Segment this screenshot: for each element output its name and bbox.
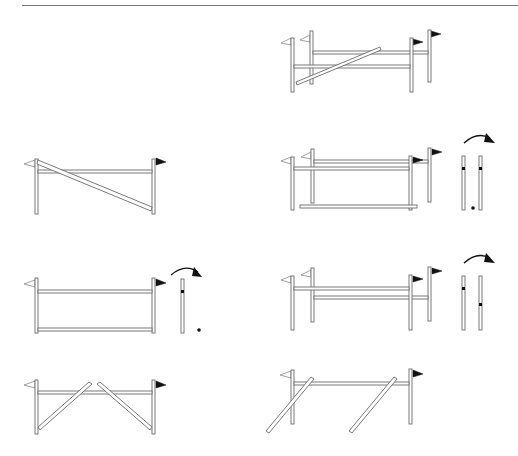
standard-left	[35, 278, 38, 333]
panel-b-vertical-diagonal-rail	[24, 158, 166, 214]
standard-front-left	[291, 38, 294, 92]
rail-top	[38, 290, 152, 293]
black-flag-icon	[431, 31, 441, 37]
white-flag-icon	[301, 270, 311, 277]
standard-back-right	[428, 267, 431, 321]
rail-leaning-left	[266, 377, 314, 433]
standard-left	[35, 380, 38, 434]
panel-a-oxer-knocked-rail	[281, 30, 441, 92]
dot-marker-icon	[197, 328, 201, 332]
panel-g-vertical-leaning-rails	[266, 369, 423, 433]
rail-front	[294, 287, 409, 290]
white-flag-icon	[280, 371, 291, 378]
black-flag-icon	[413, 276, 423, 282]
standard-side-2	[479, 156, 482, 210]
cup-marker-icon	[462, 167, 465, 170]
standard-right	[152, 159, 155, 214]
rail-front	[294, 65, 410, 68]
standard-back-left	[311, 149, 314, 203]
standard-front-left	[291, 276, 294, 330]
black-flag-icon	[156, 381, 166, 388]
standard-back-right	[428, 148, 431, 202]
standard-side-1	[462, 156, 465, 210]
cup-marker-icon	[462, 287, 465, 290]
white-flag-icon	[281, 276, 291, 283]
black-flag-icon	[432, 149, 442, 155]
white-flag-icon	[24, 160, 35, 167]
white-flag-icon	[281, 157, 291, 164]
standard-back-right	[428, 30, 431, 82]
rail-ground	[300, 205, 417, 208]
fence-diagram-svg	[0, 0, 518, 456]
cup-marker-icon	[181, 290, 184, 293]
black-flag-icon	[156, 279, 166, 286]
cup-marker-icon	[479, 167, 482, 170]
standard-left	[291, 370, 294, 424]
panel-e-oxer-offset-rails	[281, 253, 495, 330]
rail-top	[38, 391, 152, 394]
dot-marker-icon	[471, 206, 475, 210]
rail-fallen-diagonal	[37, 160, 152, 211]
white-flag-icon	[281, 38, 291, 45]
white-flag-icon	[301, 152, 311, 159]
rail-front	[294, 167, 409, 170]
black-flag-icon	[156, 158, 166, 165]
standard-front-right	[409, 156, 412, 210]
standard-left	[35, 159, 38, 214]
black-flag-icon	[413, 39, 423, 45]
arrow-head-icon	[192, 267, 202, 277]
white-flag-icon	[300, 35, 310, 42]
standard-right	[152, 380, 155, 434]
panel-f-vertical-v-rails	[24, 380, 166, 434]
standard-side	[181, 279, 184, 333]
panel-d-vertical-two-rails	[24, 267, 202, 333]
standard-front-right	[410, 38, 413, 92]
panel-c-oxer-ground-rail	[281, 133, 495, 210]
rail-bottom	[38, 328, 152, 331]
arrow-head-icon	[484, 133, 495, 143]
rail-fallen-right	[97, 382, 152, 430]
white-flag-icon	[24, 381, 35, 388]
standard-back-left	[311, 268, 314, 322]
standard-right	[409, 369, 412, 424]
standard-right	[152, 278, 155, 333]
rail-fallen-left	[38, 382, 92, 430]
standard-front-right	[409, 275, 412, 330]
black-flag-icon	[413, 370, 423, 377]
standard-side-1	[462, 276, 465, 330]
black-flag-icon	[432, 268, 442, 274]
cup-marker-icon	[479, 303, 482, 306]
fence-diagram	[0, 0, 518, 456]
standard-front-left	[291, 157, 294, 210]
arrow-head-icon	[484, 253, 495, 263]
white-flag-icon	[24, 280, 35, 287]
